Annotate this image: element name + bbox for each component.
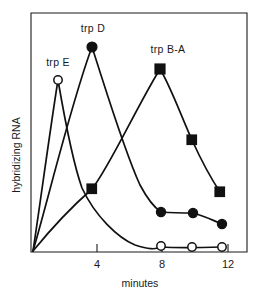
markers-trp-e bbox=[54, 76, 226, 251]
data-point-trp-ba bbox=[155, 64, 165, 74]
data-point-trp-e bbox=[157, 242, 165, 250]
data-point-trp-ba bbox=[87, 184, 97, 194]
series-label-trp-ba: trp B-A bbox=[151, 43, 186, 55]
series-label-trp-d: trp D bbox=[81, 22, 105, 34]
data-point-trp-ba bbox=[215, 187, 225, 197]
x-tick-label-12: 12 bbox=[222, 258, 234, 270]
data-point-trp-e bbox=[188, 243, 196, 251]
series-label-trp-e: trp E bbox=[46, 56, 70, 68]
data-point-trp-d bbox=[188, 208, 197, 217]
curve-trp-e bbox=[33, 80, 222, 251]
markers-trp-ba bbox=[87, 64, 225, 197]
figure-container: 4 8 12 minutes hybridizing RNA bbox=[0, 0, 265, 295]
data-point-trp-e bbox=[218, 243, 226, 251]
data-point-trp-d bbox=[217, 219, 226, 228]
y-axis-title: hybridizing RNA bbox=[10, 117, 22, 192]
x-tick-labels: 4 8 12 bbox=[94, 258, 234, 270]
x-tick-label-4: 4 bbox=[94, 258, 100, 270]
x-axis-title: minutes bbox=[122, 277, 159, 289]
data-point-trp-d bbox=[87, 42, 97, 52]
data-point-trp-ba bbox=[187, 135, 197, 145]
x-tick-label-8: 8 bbox=[159, 258, 165, 270]
data-point-trp-d bbox=[156, 207, 165, 216]
chart-canvas: 4 8 12 minutes hybridizing RNA bbox=[0, 0, 265, 295]
data-point-trp-e bbox=[54, 76, 62, 84]
